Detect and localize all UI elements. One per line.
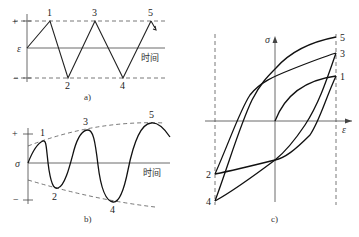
panel-b-stress-vs-time: + − σ 时间 1 2 3 4 5 b): [12, 109, 170, 224]
panel-a-strain-vs-time: + − ε 时间 1 2 3 4 5 a): [12, 7, 165, 102]
panel-a-arrow-icon: [151, 21, 156, 30]
panel-c-point-2: 2: [206, 169, 211, 180]
panel-a-point-4: 4: [120, 80, 125, 91]
strain-control-diagram: + − ε 时间 1 2 3 4 5 a) + − σ 时间 1 2 3 4 5…: [0, 0, 359, 237]
panel-a-triangle-wave: [27, 21, 151, 78]
panel-c-y-label: σ: [265, 34, 271, 45]
panel-b-plus-sign: +: [12, 128, 18, 139]
panel-b-point-3: 3: [83, 116, 88, 127]
panel-c-y-arrow-icon: [273, 36, 278, 43]
panel-a-y-label: ε: [17, 43, 21, 54]
panel-a-x-label: 时间: [141, 52, 159, 63]
panel-c-point-3: 3: [340, 48, 345, 59]
panel-b-y-label: σ: [15, 158, 21, 169]
panel-c-point-1: 1: [340, 71, 345, 82]
panel-b-point-1: 1: [40, 127, 45, 138]
panel-b-point-5: 5: [149, 109, 154, 120]
panel-c-hysteresis-loops: σ ε 5 3 1 2 4 c): [205, 32, 352, 224]
panel-a-plus-sign: +: [12, 16, 18, 27]
panel-b-point-2: 2: [52, 191, 57, 202]
panel-a-point-5: 5: [148, 7, 153, 18]
panel-a-point-1: 1: [47, 7, 52, 18]
panel-b-point-4: 4: [110, 204, 115, 215]
panel-c-x-arrow-icon: [345, 119, 352, 124]
panel-b-stress-wave: [28, 123, 170, 202]
panel-c-caption: c): [271, 214, 278, 224]
panel-c-curve-3-to-4: [215, 53, 336, 201]
panel-b-x-label: 时间: [143, 167, 161, 178]
panel-a-caption: a): [84, 92, 91, 102]
panel-c-x-label: ε: [342, 124, 346, 135]
panel-c-point-4: 4: [206, 196, 211, 207]
panel-b-minus-sign: −: [13, 194, 19, 205]
panel-a-minus-sign: −: [13, 73, 19, 84]
panel-c-point-5: 5: [340, 32, 345, 43]
panel-a-point-2: 2: [65, 80, 70, 91]
panel-b-caption: b): [84, 214, 92, 224]
panel-c-curve-2-to-3: [215, 53, 336, 174]
panel-b-lower-envelope: [28, 180, 155, 207]
panel-a-point-3: 3: [92, 7, 97, 18]
